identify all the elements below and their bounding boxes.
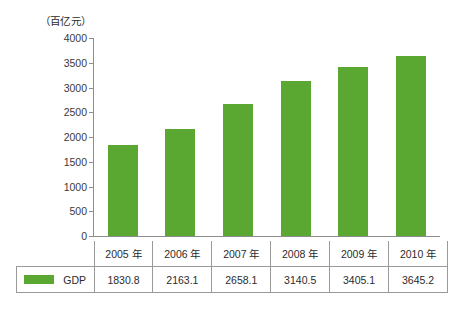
legend-cell: GDP (17, 267, 95, 293)
y-axis-tick-label: 500 (69, 205, 87, 217)
bar (396, 56, 426, 236)
legend-series-label: GDP (63, 274, 86, 286)
table-data-cell-value: 1830.8 (94, 267, 153, 293)
bar (165, 129, 195, 236)
bar (223, 104, 253, 236)
y-axis-tick-label: 1000 (64, 181, 87, 193)
table-data-row: GDP 1830.82163.12658.13140.53405.13645.2 (17, 267, 448, 293)
table-data-cell-value: 2163.1 (153, 267, 212, 293)
table-header-cell-year: 2008 年 (271, 241, 330, 267)
bar (281, 81, 311, 236)
y-axis-tick (89, 137, 93, 138)
y-axis-tick (89, 162, 93, 163)
x-axis-line (93, 236, 440, 237)
bar-slot (382, 38, 440, 236)
plot-area: 40003500300025002000150010005000 (93, 38, 440, 237)
table-header-cell-year: 2006 年 (153, 241, 212, 267)
table-data-cell-value: 3645.2 (389, 267, 448, 293)
bar-slot (267, 38, 325, 236)
gdp-bar-chart-figure: （百亿元） 40003500300025002000150010005000 2… (0, 0, 464, 309)
bar-series-gdp (94, 38, 440, 236)
data-table: 2005 年2006 年2007 年2008 年2009 年2010 年 GDP… (16, 241, 448, 293)
bar-slot (209, 38, 267, 236)
y-axis-unit-label: （百亿元） (40, 13, 91, 28)
y-axis-tick (89, 236, 93, 237)
table-header-cell-year: 2010 年 (389, 241, 448, 267)
y-axis-tick (89, 112, 93, 113)
y-axis-tick-label: 3000 (64, 82, 87, 94)
table-header-cell-year: 2005 年 (94, 241, 153, 267)
table-data-cell-value: 3405.1 (330, 267, 389, 293)
table-header-row: 2005 年2006 年2007 年2008 年2009 年2010 年 (17, 241, 448, 267)
y-axis-tick (89, 187, 93, 188)
y-axis-tick (89, 63, 93, 64)
table-data-cell-value: 2658.1 (212, 267, 271, 293)
y-axis-tick (89, 211, 93, 212)
y-axis-tick-label: 2500 (64, 106, 87, 118)
table-data-cell-value: 3140.5 (271, 267, 330, 293)
legend-color-swatch-icon (24, 275, 54, 284)
table-header-cell-year: 2007 年 (212, 241, 271, 267)
bar-slot (325, 38, 383, 236)
y-axis-tick-label: 4000 (64, 32, 87, 44)
y-axis-tick-label: 1500 (64, 156, 87, 168)
y-axis-tick (89, 88, 93, 89)
bar-slot (94, 38, 152, 236)
y-axis-tick-label: 3500 (64, 57, 87, 69)
table-header-spacer-cell (17, 241, 95, 267)
y-axis-tick-label: 2000 (64, 131, 87, 143)
y-axis-tick (89, 38, 93, 39)
table-header-cell-year: 2009 年 (330, 241, 389, 267)
bar (338, 67, 368, 236)
bar (108, 145, 138, 236)
bar-slot (152, 38, 210, 236)
